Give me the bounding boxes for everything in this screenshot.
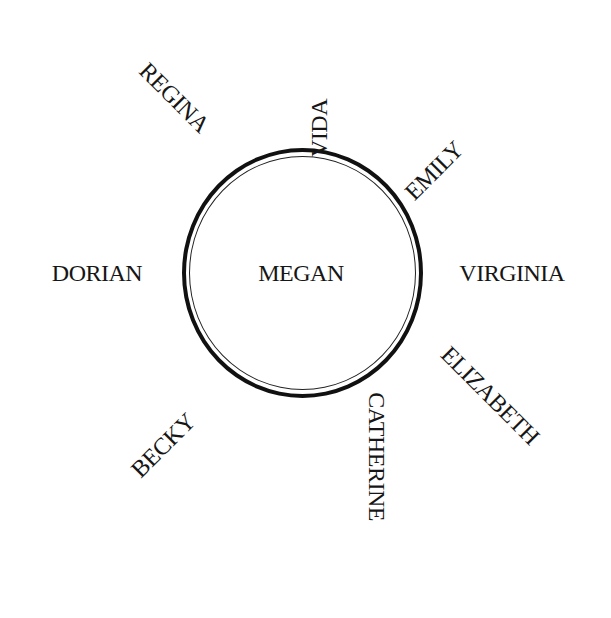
node-becky-wrapper: BECKY xyxy=(163,390,236,463)
node-label-elizabeth: ELIZABETH xyxy=(437,342,544,449)
node-label-emily: EMILY xyxy=(400,137,467,204)
node-regina-wrapper: REGINA xyxy=(157,98,236,177)
node-vida-wrapper: VIDA xyxy=(319,70,343,128)
name-circle-diagram: MEGAN VIDA EMILY VIRGINIA ELIZABETH CATH… xyxy=(0,0,611,618)
center-label: MEGAN xyxy=(258,261,344,285)
node-label-regina: REGINA xyxy=(135,58,214,137)
node-emily-wrapper: EMILY xyxy=(434,120,501,187)
node-virginia-wrapper: VIRGINIA xyxy=(512,273,611,297)
node-elizabeth-wrapper: ELIZABETH xyxy=(473,395,580,502)
node-label-vida: VIDA xyxy=(307,99,331,157)
node-label-catherine: CATHERINE xyxy=(365,392,389,521)
center-label-wrapper: MEGAN xyxy=(301,273,387,297)
node-label-becky: BECKY xyxy=(127,409,200,482)
node-label-virginia: VIRGINIA xyxy=(459,261,564,285)
node-dorian-wrapper: DORIAN xyxy=(97,273,187,297)
node-catherine-wrapper: CATHERINE xyxy=(353,457,377,586)
node-label-dorian: DORIAN xyxy=(52,261,142,285)
